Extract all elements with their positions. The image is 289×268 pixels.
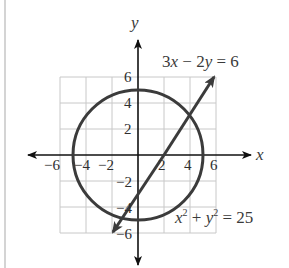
graph-canvas [0, 0, 289, 268]
x-tick: −2 [98, 158, 114, 173]
x-tick: 6 [210, 158, 218, 173]
x-tick: −6 [44, 158, 60, 173]
x-axis-label: x [256, 146, 264, 163]
y-tick: 6 [124, 70, 132, 85]
x-tick: 2 [158, 158, 166, 173]
x-tick: 4 [184, 158, 192, 173]
y-tick: 2 [124, 122, 132, 137]
y-tick: −4 [116, 201, 132, 216]
y-tick: −6 [116, 227, 132, 242]
y-axis-label: y [131, 14, 139, 31]
circle-equation-label: x2 + y2 = 25 [175, 208, 253, 226]
x-tick: −4 [74, 158, 90, 173]
line-curve [164, 77, 214, 155]
y-tick: −2 [116, 175, 132, 190]
line-equation-label: 3x − 2y = 6 [162, 53, 239, 70]
y-tick: 4 [124, 96, 132, 111]
